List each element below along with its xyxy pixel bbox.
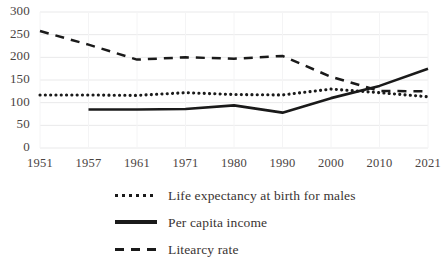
legend-label: Per capita income (168, 215, 267, 231)
series-line-solid (89, 69, 429, 113)
legend-swatch-solid (113, 216, 159, 230)
legend-swatch-dotted (113, 189, 159, 203)
legend-label: Life expectancy at birth for males (168, 188, 356, 204)
legend-line-solid-icon (115, 220, 157, 224)
legend-item[interactable]: Life expectancy at birth for males (0, 182, 435, 209)
legend-line-dotted-icon (115, 194, 157, 197)
legend-item[interactable]: Per capita income (0, 209, 435, 236)
legend-label: Litearcy rate (168, 242, 239, 258)
legend-swatch-dashed (113, 243, 159, 257)
legend-item[interactable]: Litearcy rate (0, 236, 435, 263)
legend-line-dashed-icon (115, 248, 157, 251)
chart-legend: Life expectancy at birth for malesPer ca… (0, 182, 435, 263)
